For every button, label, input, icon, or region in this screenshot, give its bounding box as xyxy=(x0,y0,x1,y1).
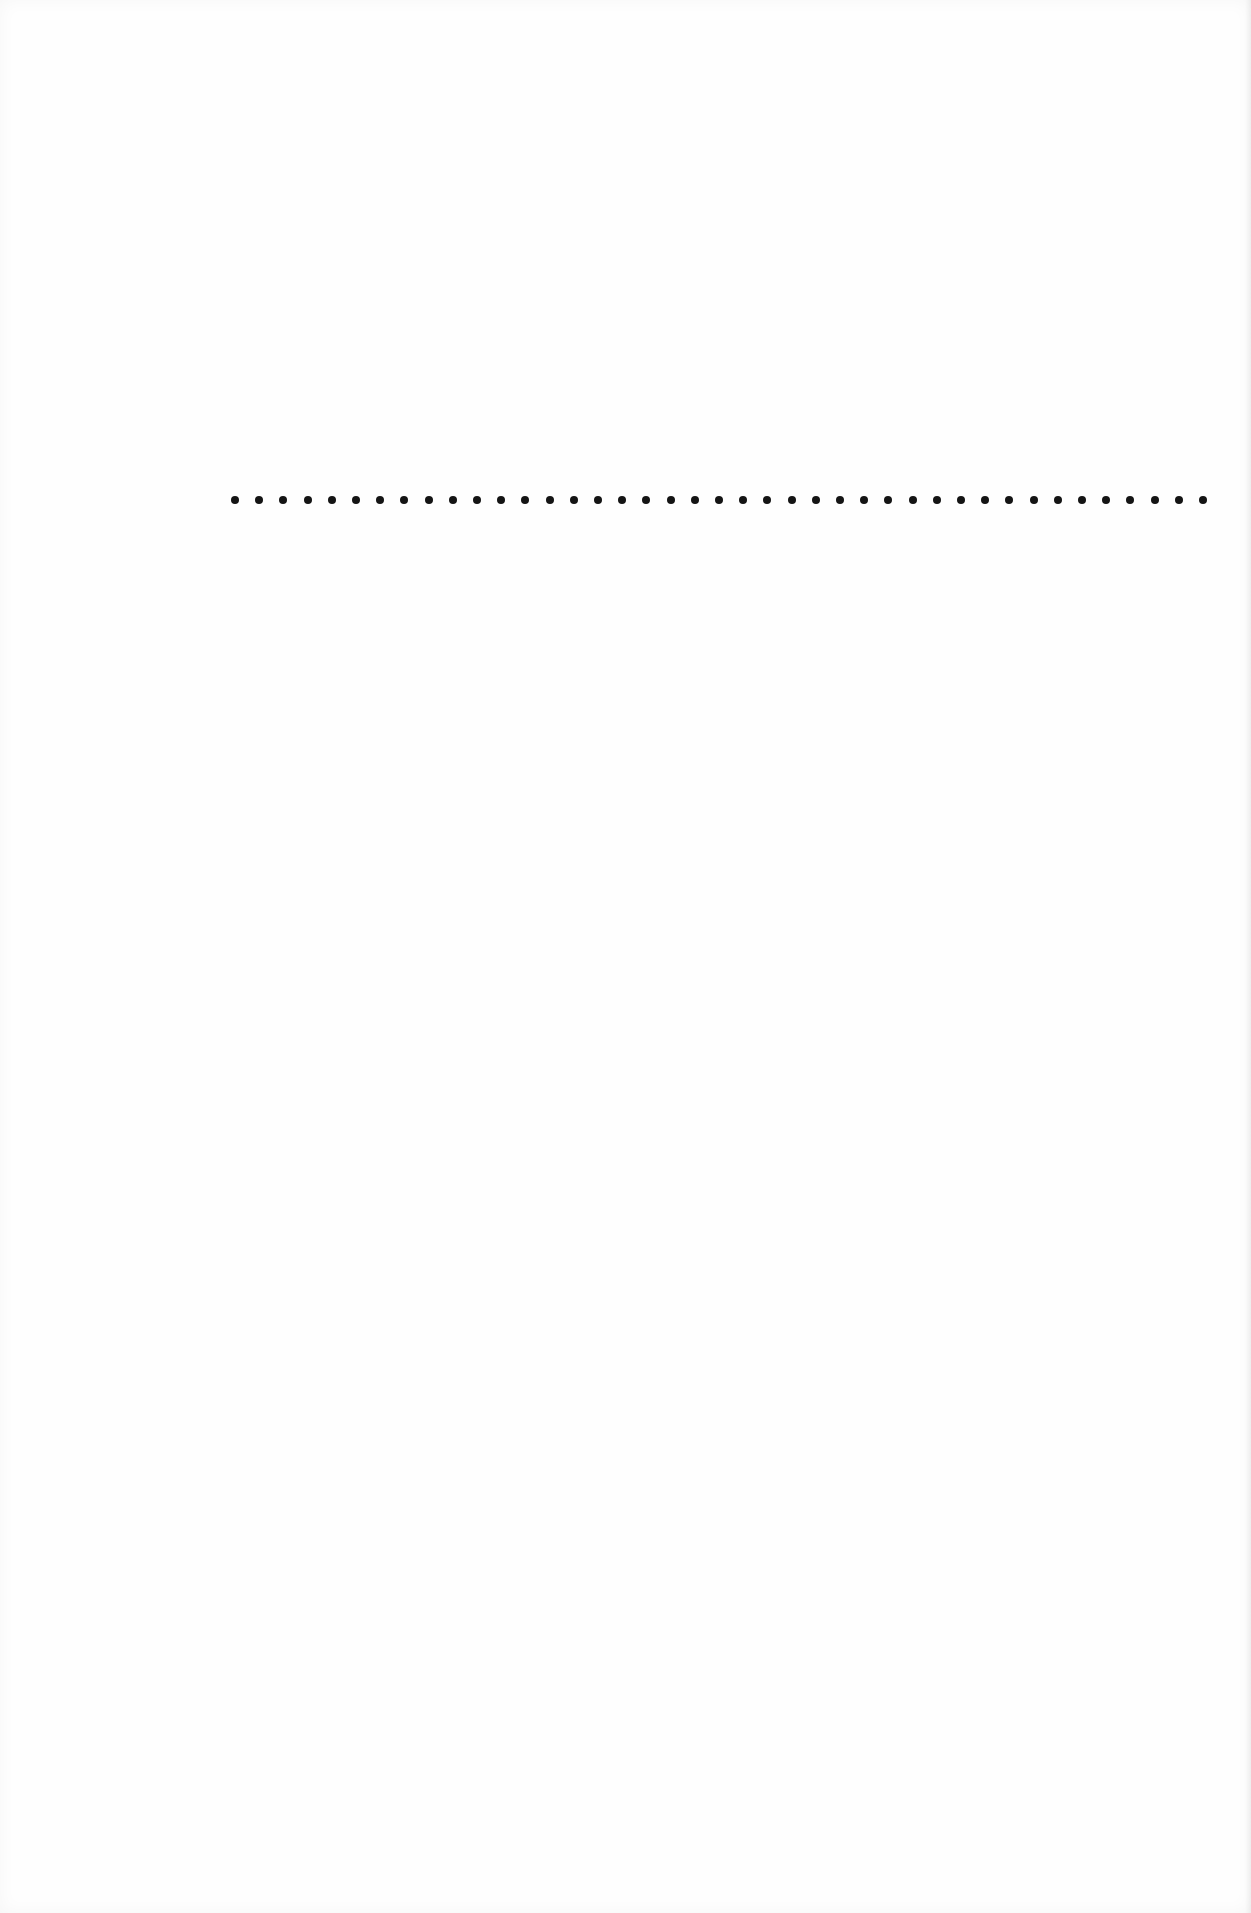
leader-dot xyxy=(1151,496,1159,504)
leader-dot xyxy=(497,496,505,504)
leader-dot xyxy=(231,496,239,504)
leader-dot xyxy=(449,496,457,504)
leader-dot xyxy=(909,496,917,504)
leader-dot xyxy=(1199,496,1207,504)
leader-dot xyxy=(352,496,360,504)
leader-dot xyxy=(957,496,965,504)
leader-dot xyxy=(376,496,384,504)
leader-dot xyxy=(1054,496,1062,504)
document-page xyxy=(0,0,1251,1913)
leader-dot xyxy=(836,496,844,504)
leader-dot xyxy=(279,496,287,504)
leader-dot xyxy=(473,496,481,504)
leader-dot xyxy=(788,496,796,504)
leader-dot xyxy=(1102,496,1110,504)
dot-leader-row xyxy=(231,496,1211,505)
leader-dot xyxy=(642,496,650,504)
leader-dot xyxy=(570,496,578,504)
page-edge-shadow xyxy=(1245,0,1251,1913)
leader-dot xyxy=(594,496,602,504)
leader-dot xyxy=(400,496,408,504)
leader-dot xyxy=(304,496,312,504)
leader-dot xyxy=(1030,496,1038,504)
leader-dot xyxy=(884,496,892,504)
leader-dot xyxy=(425,496,433,504)
leader-dot xyxy=(860,496,868,504)
leader-dot xyxy=(691,496,699,504)
leader-dot xyxy=(1078,496,1086,504)
leader-dot xyxy=(981,496,989,504)
leader-dot xyxy=(715,496,723,504)
leader-dot xyxy=(328,496,336,504)
leader-dot xyxy=(812,496,820,504)
leader-dot xyxy=(933,496,941,504)
leader-dot xyxy=(546,496,554,504)
leader-dot xyxy=(667,496,675,504)
leader-dot xyxy=(1175,496,1183,504)
leader-dot xyxy=(763,496,771,504)
leader-dot xyxy=(521,496,529,504)
leader-dot xyxy=(739,496,747,504)
leader-dot xyxy=(255,496,263,504)
leader-dot xyxy=(1005,496,1013,504)
leader-dot xyxy=(618,496,626,504)
leader-dot xyxy=(1126,496,1134,504)
